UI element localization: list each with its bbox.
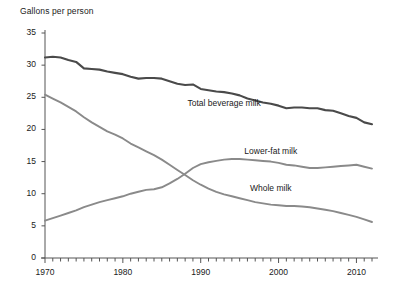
y-tick-label-0: 0 [14,252,36,262]
series-label-whole-milk: Whole milk [250,183,292,193]
data-series-lines [45,57,372,222]
series-line-lower-fat-milk [45,159,372,221]
x-tick-label-2000: 2000 [259,267,299,277]
series-line-total-beverage-milk [45,57,372,125]
y-tick-label-25: 25 [14,91,36,101]
y-tick-label-35: 35 [14,27,36,37]
x-tick-label-1970: 1970 [25,267,65,277]
axes [41,30,378,258]
milk-consumption-line-chart: Gallons per person 05101520253035 197019… [0,0,401,296]
y-tick-label-20: 20 [14,123,36,133]
plot-area [0,0,401,296]
series-label-total-beverage-milk: Total beverage milk [187,98,260,108]
series-label-lower-fat-milk: Lower-fat milk [244,146,297,156]
y-tick-label-30: 30 [14,59,36,69]
y-tick-label-15: 15 [14,156,36,166]
y-tick-label-10: 10 [14,188,36,198]
x-tick-label-1990: 1990 [181,267,221,277]
x-tick-label-2010: 2010 [336,267,376,277]
y-tick-label-5: 5 [14,220,36,230]
x-tick-label-1980: 1980 [103,267,143,277]
tick-marks [42,33,373,263]
